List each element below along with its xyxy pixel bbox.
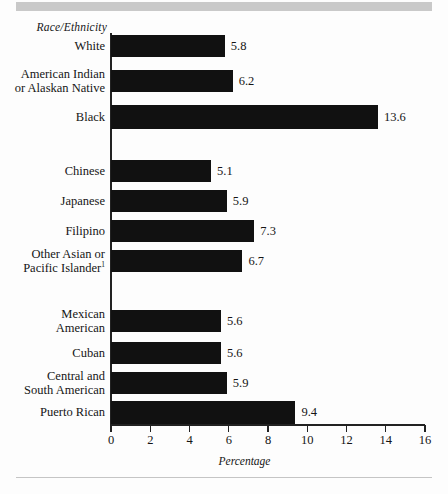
bar-category-label: Filipino: [65, 225, 105, 239]
bar-row: Filipino7.3: [0, 220, 448, 242]
x-axis-title: Percentage: [0, 455, 448, 467]
bar-category-label: Puerto Rican: [40, 406, 105, 420]
y-axis-title: Race/Ethnicity: [37, 21, 108, 33]
bar: [111, 401, 295, 424]
bar-value-label: 13.6: [384, 110, 406, 125]
bar-category-label-line: Pacific Islander1: [23, 262, 105, 276]
bar-row: American Indianor Alaskan Native6.2: [0, 70, 448, 92]
bar-value-label: 5.8: [231, 39, 247, 54]
bar-row: Other Asian orPacific Islander16.7: [0, 250, 448, 272]
bar-value-label: 6.2: [239, 74, 255, 89]
bar-category-label-line: South American: [24, 384, 105, 398]
x-axis-tick-mark: [228, 425, 229, 432]
x-axis-tick-mark: [346, 425, 347, 432]
bar-category-label-line: Filipino: [65, 225, 105, 239]
bar-category-label: Cuban: [72, 347, 105, 361]
bar-category-label-line: Chinese: [65, 165, 105, 179]
x-axis-tick-label: 2: [147, 433, 153, 448]
bar: [111, 310, 221, 332]
bar-category-label-line: Other Asian or: [23, 248, 105, 262]
bar: [111, 250, 242, 272]
bar-category-label: American Indianor Alaskan Native: [15, 68, 105, 95]
x-axis-tick-mark: [424, 425, 425, 432]
bar-value-label: 9.4: [301, 405, 317, 420]
bar-category-label: White: [74, 40, 105, 54]
x-axis-tick-mark: [189, 425, 190, 432]
x-axis-tick-mark: [385, 425, 386, 432]
bar: [111, 160, 211, 182]
bar-category-label: Black: [76, 111, 105, 125]
bar-row: Cuban5.6: [0, 342, 448, 364]
bar-category-label-line: Puerto Rican: [40, 406, 105, 420]
bar-category-label-line: Black: [76, 111, 105, 125]
bar-row: MexicanAmerican5.6: [0, 310, 448, 332]
bar-category-label: Chinese: [65, 165, 105, 179]
bar-category-label-line: White: [74, 40, 105, 54]
bar: [111, 342, 221, 364]
bar-value-label: 5.1: [217, 164, 233, 179]
bar-chart: Race/Ethnicity White5.8American Indianor…: [0, 0, 448, 494]
x-axis-tick-label: 6: [226, 433, 232, 448]
bar-value-label: 5.9: [233, 194, 249, 209]
x-axis-title-text: Percentage: [219, 455, 271, 467]
bar-row: Black13.6: [0, 105, 448, 129]
bar-category-label: MexicanAmerican: [56, 308, 105, 335]
x-axis-tick-mark: [307, 425, 308, 432]
x-axis-tick-label: 12: [340, 433, 353, 448]
bar: [111, 105, 378, 129]
bar-category-label-line: American: [56, 322, 105, 336]
bar-row: Central andSouth American5.9: [0, 372, 448, 394]
bar-category-label-line: Central and: [24, 370, 105, 384]
bar-value-label: 6.7: [248, 254, 264, 269]
x-axis-tick-label: 8: [265, 433, 271, 448]
bar-category-label: Japanese: [61, 195, 105, 209]
bar-row: Japanese5.9: [0, 190, 448, 212]
bottom-rule: [16, 477, 432, 478]
bar-category-label-line: American Indian: [15, 68, 105, 82]
x-axis-tick-mark: [267, 425, 268, 432]
footnote-marker: 1: [101, 259, 105, 268]
figure-page: Race/Ethnicity White5.8American Indianor…: [0, 0, 448, 494]
x-axis-tick-label: 0: [108, 433, 114, 448]
bar-category-label-line: Mexican: [56, 308, 105, 322]
bar-value-label: 7.3: [260, 224, 276, 239]
bar-row: White5.8: [0, 35, 448, 57]
bar-category-label: Other Asian orPacific Islander1: [23, 248, 105, 275]
bar-category-label-line: or Alaskan Native: [15, 82, 105, 96]
bar-row: Puerto Rican9.4: [0, 401, 448, 424]
bar-value-label: 5.6: [227, 314, 243, 329]
bar: [111, 220, 254, 242]
bar-row: Chinese5.1: [0, 160, 448, 182]
bar: [111, 70, 233, 92]
bar: [111, 190, 227, 212]
bar: [111, 35, 225, 57]
x-axis-tick-mark: [150, 425, 151, 432]
x-axis-tick-label: 14: [380, 433, 393, 448]
bar-value-label: 5.6: [227, 346, 243, 361]
bar-category-label-line: Cuban: [72, 347, 105, 361]
bar-category-label-line: Japanese: [61, 195, 105, 209]
x-axis-tick-label: 16: [419, 433, 432, 448]
x-axis-tick-mark: [110, 425, 111, 432]
bar: [111, 372, 227, 394]
x-axis-tick-label: 10: [301, 433, 314, 448]
x-axis-tick-label: 4: [186, 433, 192, 448]
bar-value-label: 5.9: [233, 376, 249, 391]
bar-category-label: Central andSouth American: [24, 370, 105, 397]
